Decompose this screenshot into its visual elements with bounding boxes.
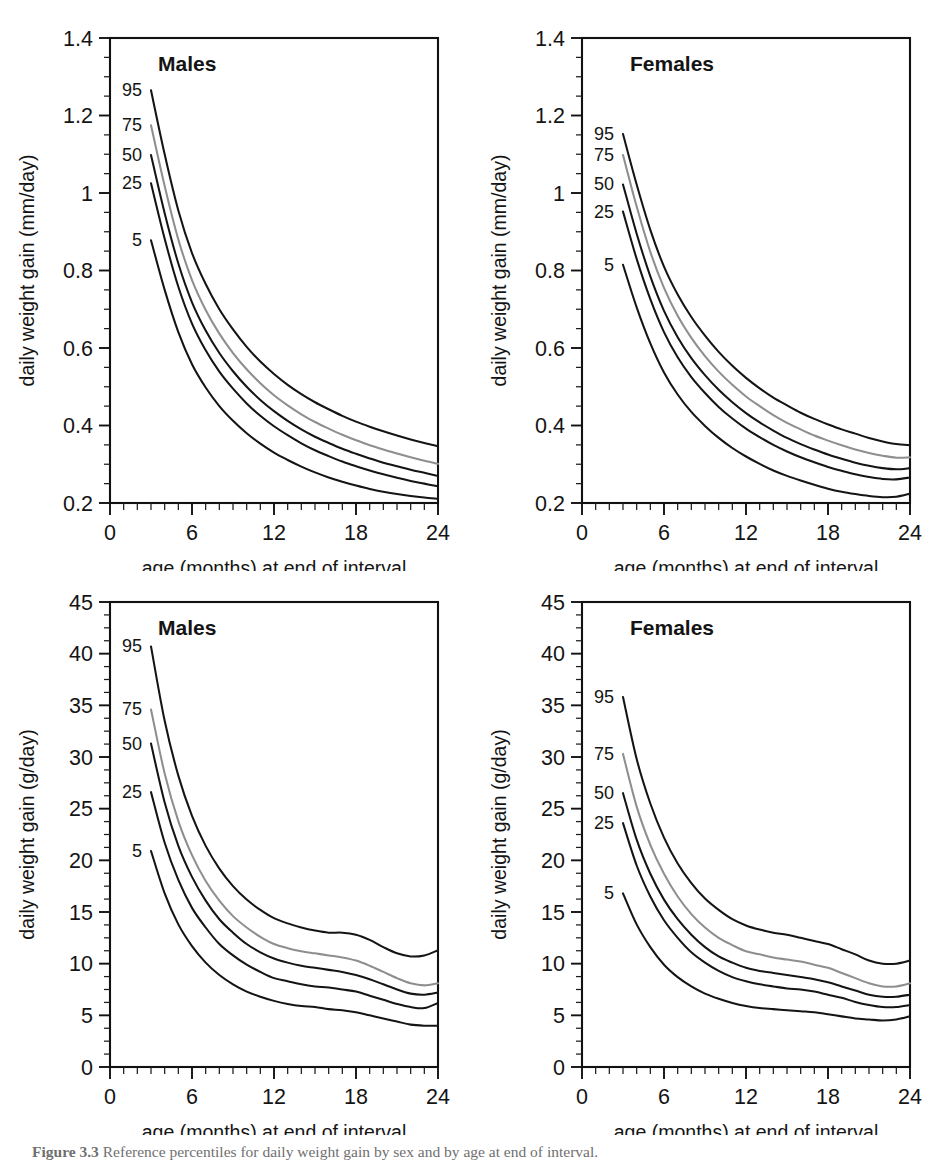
- y-tick-label: 35: [541, 694, 565, 718]
- percentile-label-95: 95: [122, 636, 142, 656]
- x-tick-label: 18: [816, 1085, 840, 1109]
- figure-caption-text: Reference percentiles for daily weight g…: [103, 1143, 598, 1160]
- y-tick-label: 15: [541, 901, 565, 925]
- percentile-label-25: 25: [122, 782, 142, 802]
- percentile-label-25: 25: [122, 173, 142, 193]
- percentile-curve-5: [151, 851, 438, 1026]
- plot-area-top-right: 0.20.40.60.811.21.406121824age (months) …: [472, 6, 948, 571]
- y-tick-label: 0: [81, 1056, 93, 1080]
- percentile-curve-75: [623, 155, 910, 458]
- x-tick-label: 24: [898, 1085, 922, 1109]
- y-tick-label: 5: [81, 1004, 93, 1028]
- x-axis-title: age (months) at end of interval: [142, 557, 406, 571]
- y-tick-label: 0.4: [63, 414, 93, 438]
- percentile-curve-75: [623, 754, 910, 987]
- y-tick-label: 0.2: [535, 492, 565, 516]
- y-tick-label: 15: [69, 901, 93, 925]
- plot-area-top-left: 0.20.40.60.811.21.406121824age (months) …: [0, 6, 476, 571]
- y-tick-label: 20: [69, 849, 93, 873]
- percentile-label-95: 95: [594, 687, 614, 707]
- percentile-label-75: 75: [122, 699, 142, 719]
- percentile-label-75: 75: [594, 744, 614, 764]
- x-tick-label: 18: [816, 521, 840, 545]
- y-tick-label: 0.6: [535, 337, 565, 361]
- x-tick-label: 6: [658, 521, 670, 545]
- percentile-label-25: 25: [594, 202, 614, 222]
- panel-top-right-females-mm: 0.20.40.60.811.21.406121824age (months) …: [472, 6, 948, 571]
- y-tick-label: 1.2: [535, 104, 565, 128]
- y-axis-title: daily weight gain (g/day): [488, 729, 510, 939]
- y-axis-title: daily weight gain (mm/day): [16, 155, 38, 387]
- axis-frame: [582, 38, 910, 503]
- percentile-curve-5: [151, 240, 438, 498]
- y-tick-label: 1: [81, 182, 93, 206]
- percentile-curve-95: [623, 134, 910, 445]
- percentile-label-5: 5: [604, 255, 614, 275]
- percentile-curve-50: [151, 155, 438, 476]
- x-tick-label: 0: [104, 521, 116, 545]
- y-tick-label: 1.4: [63, 27, 93, 51]
- percentile-curve-75: [151, 125, 438, 464]
- figure-root: 0.20.40.60.811.21.406121824age (months) …: [0, 0, 952, 1162]
- percentile-label-95: 95: [594, 124, 614, 144]
- percentile-curve-50: [151, 744, 438, 995]
- y-tick-label: 40: [541, 642, 565, 666]
- y-tick-label: 25: [541, 797, 565, 821]
- percentile-curve-25: [151, 792, 438, 1008]
- x-tick-label: 6: [658, 1085, 670, 1109]
- y-tick-label: 0.6: [63, 337, 93, 361]
- y-tick-label: 0.4: [535, 414, 565, 438]
- x-axis-title: age (months) at end of interval: [142, 1121, 406, 1135]
- panel-bottom-left-males-g: 05101520253035404506121824age (months) a…: [0, 570, 476, 1135]
- x-tick-label: 24: [426, 1085, 450, 1109]
- y-tick-label: 0.2: [63, 492, 93, 516]
- plot-area-bottom-left: 05101520253035404506121824age (months) a…: [0, 570, 476, 1135]
- x-tick-label: 12: [262, 521, 286, 545]
- x-tick-label: 0: [104, 1085, 116, 1109]
- panel-title: Females: [630, 52, 714, 75]
- x-axis-title: age (months) at end of interval: [614, 557, 878, 571]
- y-tick-label: 30: [541, 746, 565, 770]
- panel-bottom-right-females-g: 05101520253035404506121824age (months) a…: [472, 570, 948, 1135]
- percentile-label-5: 5: [604, 883, 614, 903]
- y-tick-label: 1.4: [535, 27, 565, 51]
- panel-title: Males: [158, 52, 216, 75]
- x-tick-label: 24: [898, 521, 922, 545]
- y-tick-label: 35: [69, 694, 93, 718]
- panel-title: Males: [158, 616, 216, 639]
- y-tick-label: 10: [541, 952, 565, 976]
- percentile-label-5: 5: [132, 230, 142, 250]
- y-tick-label: 0.8: [535, 259, 565, 283]
- percentile-label-50: 50: [594, 783, 614, 803]
- y-axis-title: daily weight gain (mm/day): [488, 155, 510, 387]
- x-axis-title: age (months) at end of interval: [614, 1121, 878, 1135]
- y-tick-label: 0.8: [63, 259, 93, 283]
- percentile-curve-95: [151, 90, 438, 446]
- y-axis-title: daily weight gain (g/day): [16, 729, 38, 939]
- y-tick-label: 45: [69, 591, 93, 615]
- x-tick-label: 0: [576, 521, 588, 545]
- percentile-curve-25: [623, 823, 910, 1007]
- percentile-curve-25: [151, 183, 438, 486]
- x-tick-label: 12: [734, 1085, 758, 1109]
- percentile-label-50: 50: [122, 145, 142, 165]
- percentile-curve-25: [623, 212, 910, 480]
- x-tick-label: 12: [734, 521, 758, 545]
- y-tick-label: 5: [553, 1004, 565, 1028]
- y-tick-label: 45: [541, 591, 565, 615]
- y-tick-label: 10: [69, 952, 93, 976]
- percentile-label-25: 25: [594, 813, 614, 833]
- x-tick-label: 6: [186, 521, 198, 545]
- y-tick-label: 20: [541, 849, 565, 873]
- x-tick-label: 6: [186, 1085, 198, 1109]
- percentile-curve-5: [623, 265, 910, 498]
- y-tick-label: 30: [69, 746, 93, 770]
- x-tick-label: 0: [576, 1085, 588, 1109]
- x-tick-label: 12: [262, 1085, 286, 1109]
- y-tick-label: 1: [553, 182, 565, 206]
- y-tick-label: 1.2: [63, 104, 93, 128]
- figure-caption-label: Figure 3.3: [32, 1143, 99, 1160]
- x-tick-label: 18: [344, 1085, 368, 1109]
- percentile-label-95: 95: [122, 80, 142, 100]
- y-tick-label: 40: [69, 642, 93, 666]
